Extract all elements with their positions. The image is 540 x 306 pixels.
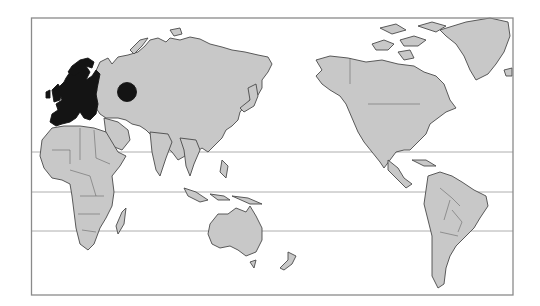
- central-america: [388, 160, 412, 188]
- greenland: [440, 18, 510, 80]
- madagascar: [116, 208, 126, 234]
- indian-subcontinent: [150, 132, 172, 176]
- north-america: [316, 56, 456, 168]
- new-zealand: [280, 252, 296, 270]
- tasmania: [250, 260, 256, 268]
- cuba-caribbean: [412, 160, 436, 166]
- philippines: [220, 160, 228, 178]
- south-america: [424, 172, 488, 288]
- iceland: [504, 68, 512, 76]
- british-isles-highlighted: [46, 84, 62, 102]
- severnaya-zemlya: [170, 28, 182, 36]
- indonesia: [184, 188, 262, 204]
- location-marker-circle: [118, 83, 137, 102]
- canadian-arctic-islands: [372, 22, 446, 60]
- australia: [208, 206, 262, 256]
- world-map: [0, 0, 540, 306]
